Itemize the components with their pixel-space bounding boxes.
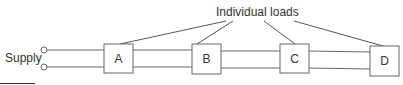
leader-lines bbox=[120, 21, 383, 46]
load-box-d: D bbox=[370, 46, 399, 76]
leader-line-a bbox=[120, 21, 226, 44]
load-diagram: A B C D Individual loads Supply bbox=[0, 0, 403, 85]
leader-line-c bbox=[264, 21, 295, 44]
supply-terminal-bottom-icon bbox=[41, 64, 47, 70]
leader-line-b bbox=[197, 21, 233, 44]
leader-line-d bbox=[294, 21, 383, 46]
load-box-b: B bbox=[192, 44, 221, 74]
load-label-b: B bbox=[202, 52, 210, 66]
supply-terminal-top-icon bbox=[41, 47, 47, 53]
load-label-d: D bbox=[380, 54, 389, 68]
wire-c-d-bottom bbox=[309, 68, 370, 69]
supply-label: Supply bbox=[5, 51, 42, 65]
load-label-a: A bbox=[114, 52, 122, 66]
load-label-c: C bbox=[290, 52, 299, 66]
load-box-a: A bbox=[104, 44, 133, 73]
individual-loads-label: Individual loads bbox=[216, 5, 299, 19]
load-box-c: C bbox=[280, 44, 309, 73]
wire-c-d-top bbox=[309, 51, 370, 52]
